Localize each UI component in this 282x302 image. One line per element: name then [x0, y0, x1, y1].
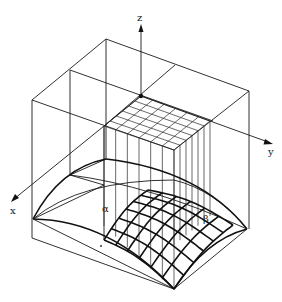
y-axis-arrow-icon — [264, 139, 274, 145]
bounding-box — [32, 39, 249, 289]
z-axis-label: z — [137, 12, 142, 23]
shell-grid — [104, 190, 233, 289]
shell-diagram: z y x α β — [0, 0, 282, 302]
x-axis-label: x — [10, 205, 16, 216]
plan-grid-line — [162, 117, 198, 146]
y-axis-label: y — [267, 146, 274, 157]
beta-label: β — [203, 213, 209, 224]
origin-dot — [139, 94, 143, 98]
x-axis-arrow-icon — [11, 194, 19, 202]
beta-grid-line — [104, 190, 148, 240]
shell-inner-arch-1 — [33, 180, 247, 229]
projection-lines — [104, 121, 210, 290]
shell-chord-base-2 — [174, 229, 247, 289]
alpha-label: α — [102, 203, 109, 214]
plan-grid-line — [151, 113, 187, 142]
plan-grid-line — [123, 111, 193, 136]
z-axis-arrow-icon — [139, 24, 144, 32]
plan-grid-line — [116, 116, 186, 140]
plan-grid — [104, 96, 210, 150]
shell-chord-base-1 — [33, 219, 174, 289]
box-bottom-inner — [70, 159, 106, 175]
center-dot — [100, 245, 102, 247]
shell-surface — [33, 159, 247, 289]
plan-grid-line — [110, 121, 180, 145]
